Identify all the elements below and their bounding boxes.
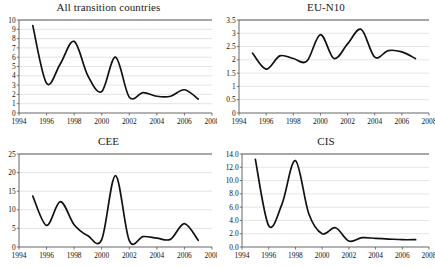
y-tick-label: 2.5: [226, 42, 236, 51]
x-tick-label: 2000: [313, 117, 328, 126]
x-tick-label: 2006: [177, 251, 192, 260]
gridlines: [19, 172, 212, 228]
y-tick-label: 10: [8, 16, 16, 25]
y-tick-label: 3: [12, 81, 16, 90]
y-tick-label: 10.0: [225, 176, 238, 185]
x-tick-label: 2000: [314, 251, 329, 260]
data-series-line: [252, 29, 415, 69]
chart-panel-3: CEE0510152025199419961998200020022004200…: [0, 134, 217, 267]
data-series-line: [33, 26, 198, 99]
x-axis-ticks: 19941996199820002002200420062008: [231, 113, 434, 126]
x-tick-label: 2002: [122, 117, 137, 126]
x-tick-label: 2004: [368, 251, 383, 260]
x-tick-label: 2004: [367, 117, 382, 126]
y-tick-label: 5: [12, 224, 16, 233]
chart-panel-1: All transition countries0123456789101994…: [0, 0, 217, 133]
plot-area: 0510152025199419961998200020022004200620…: [0, 134, 217, 267]
y-tick-label: 1: [231, 82, 235, 91]
x-tick-label: 2006: [177, 117, 192, 126]
y-tick-label: 15: [8, 186, 16, 195]
gridlines: [239, 33, 429, 99]
x-tick-label: 1994: [12, 117, 27, 126]
y-tick-label: 14.0: [225, 149, 238, 158]
data-series-line: [255, 159, 415, 241]
chart-panel-4: CIS0.02.04.06.08.010.012.014.01994199619…: [218, 134, 435, 267]
y-tick-label: 4: [12, 71, 16, 80]
x-tick-label: 2004: [149, 251, 164, 260]
x-tick-label: 2002: [340, 117, 355, 126]
y-tick-label: 9: [12, 25, 16, 34]
y-axis-ticks: 0.02.04.06.08.010.012.014.0: [225, 149, 241, 251]
x-tick-label: 2004: [149, 117, 164, 126]
y-tick-label: 1: [12, 99, 16, 108]
x-tick-label: 2002: [341, 251, 356, 260]
x-tick-label: 2006: [394, 251, 409, 260]
y-tick-label: 20: [8, 168, 16, 177]
x-tick-label: 1996: [39, 117, 54, 126]
x-tick-label: 1996: [261, 251, 276, 260]
x-tick-label: 2000: [94, 251, 109, 260]
x-tick-label: 2008: [205, 251, 217, 260]
y-axis-ticks: 00.511.522.533.5: [226, 16, 239, 118]
y-tick-label: 25: [8, 149, 16, 158]
x-tick-label: 2008: [421, 117, 434, 126]
x-tick-label: 1994: [231, 117, 246, 126]
x-tick-label: 2008: [205, 117, 217, 126]
chart-panel-2: EU-N1000.511.522.533.5199419961998200020…: [218, 0, 435, 133]
plot-area: 00.511.522.533.5199419961998200020022004…: [218, 0, 435, 133]
y-tick-label: 0.5: [226, 95, 236, 104]
x-axis-ticks: 19941996199820002002200420062008: [12, 247, 217, 260]
x-tick-label: 2006: [394, 117, 409, 126]
y-tick-label: 3.5: [226, 16, 236, 25]
y-axis-ticks: 012345678910: [8, 16, 19, 118]
y-tick-label: 2.0: [229, 229, 239, 238]
x-tick-label: 2000: [94, 117, 109, 126]
x-tick-label: 1996: [39, 251, 54, 260]
y-tick-label: 8: [12, 34, 16, 43]
y-tick-label: 8.0: [229, 189, 239, 198]
y-tick-label: 12.0: [225, 162, 238, 171]
y-tick-label: 3: [231, 29, 235, 38]
x-tick-label: 1998: [288, 251, 303, 260]
x-axis-ticks: 19941996199820002002200420062008: [12, 113, 217, 126]
y-tick-label: 10: [8, 205, 16, 214]
x-tick-label: 1998: [67, 251, 82, 260]
x-tick-label: 1996: [258, 117, 273, 126]
y-tick-label: 1.5: [226, 69, 236, 78]
plot-area: 0123456789101994199619982000200220042006…: [0, 0, 217, 133]
plot-area: 0.02.04.06.08.010.012.014.01994199619982…: [218, 134, 435, 267]
gridlines: [19, 29, 212, 103]
y-tick-label: 2: [231, 55, 235, 64]
y-tick-label: 5: [12, 62, 16, 71]
x-tick-label: 1994: [234, 251, 249, 260]
x-tick-label: 2002: [122, 251, 137, 260]
x-tick-label: 2008: [421, 251, 434, 260]
y-tick-label: 7: [12, 44, 16, 53]
x-tick-label: 1998: [285, 117, 300, 126]
y-axis-ticks: 0510152025: [8, 149, 19, 251]
y-tick-label: 6.0: [229, 202, 239, 211]
x-tick-label: 1998: [67, 117, 82, 126]
x-tick-label: 1994: [12, 251, 27, 260]
gridlines: [242, 167, 429, 233]
figure-grid: All transition countries0123456789101994…: [0, 0, 435, 267]
y-tick-label: 4.0: [229, 216, 239, 225]
y-tick-label: 6: [12, 53, 16, 62]
y-tick-label: 2: [12, 90, 16, 99]
x-axis-ticks: 19941996199820002002200420062008: [234, 247, 434, 260]
